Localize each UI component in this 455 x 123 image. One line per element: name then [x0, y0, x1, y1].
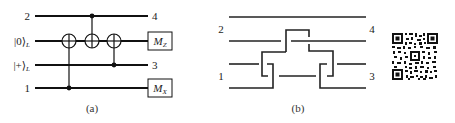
panel-b-caption: (b): [292, 102, 305, 115]
cnot-target-icon: [107, 34, 121, 48]
qr-code-icon: [392, 33, 438, 80]
panel-b-label-3: 3: [369, 70, 375, 82]
cnot-target-icon: [62, 34, 76, 48]
right-bracket: [309, 44, 333, 76]
figure-canvas: 2 |0⟩L |+⟩L 1 4 3 MZ MX (a) 2 4 1 3 (b): [0, 0, 455, 123]
wire-label-plusL: |+⟩L: [13, 59, 30, 73]
panel-a-caption: (a): [86, 102, 99, 115]
control-dot-icon: [112, 63, 117, 68]
wire-label-1: 1: [25, 82, 31, 94]
left-bracket: [262, 52, 286, 76]
control-dot-icon: [90, 14, 95, 19]
panel-a-circuit: [35, 14, 172, 97]
bottom-right-path: [320, 64, 366, 88]
wire-output-label-4: 4: [152, 10, 158, 22]
panel-b-label-1: 1: [218, 70, 224, 82]
panel-b-label-4: 4: [369, 23, 375, 35]
wire-output-label-3: 3: [152, 59, 158, 71]
panel-b-diagram: [229, 17, 366, 88]
wire-label-0L: |0⟩L: [14, 35, 30, 49]
wire-label-2: 2: [25, 10, 31, 22]
control-dot-icon: [67, 86, 72, 91]
cnot-target-icon: [85, 34, 99, 48]
panel-b-label-2: 2: [218, 23, 224, 35]
